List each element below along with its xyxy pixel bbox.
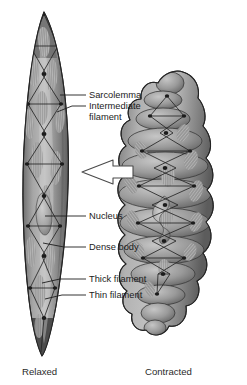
label-intermediate-filament: Intermediate — [89, 101, 141, 111]
label-nucleus: Nucleus — [89, 211, 123, 221]
label-intermediate-filament-line2: filament — [89, 112, 122, 122]
caption-contracted: Contracted — [145, 366, 192, 377]
label-thick-filament: Thick filament — [89, 274, 147, 284]
caption-relaxed: Relaxed — [22, 366, 57, 377]
label-thin-filament: Thin filament — [89, 290, 143, 300]
label-sarcolemma: Sarcolemma — [89, 90, 142, 100]
figure-panel: Sarcolemma Intermediate filament Nucleus… — [0, 0, 247, 385]
smooth-muscle-diagram: Sarcolemma Intermediate filament Nucleus… — [0, 0, 247, 385]
label-dense-body: Dense body — [89, 242, 139, 252]
